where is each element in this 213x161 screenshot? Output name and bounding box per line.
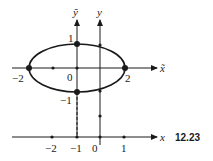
origin-label: 0 [67, 71, 73, 83]
vertex-bottom-dot [74, 89, 80, 95]
top-vertex-label: 1 [68, 32, 74, 44]
ellipse-diagram: ỹ y x̃ x 1 −2 0 2 −1 −2 −1 0 1 12.23 [0, 0, 213, 161]
vertex-left-dot [26, 65, 32, 71]
vertex-right-dot [122, 65, 128, 71]
x-tick-dot [98, 135, 101, 138]
x-tick-label: −2 [45, 142, 57, 154]
y-axis-mid-dot [98, 114, 101, 117]
x-tick-label: −1 [70, 142, 82, 154]
x-tilde-label: x̃ [159, 62, 166, 74]
left-vertex-label: −2 [12, 72, 24, 84]
y-axis-upper-cross-dot [98, 43, 101, 46]
y-tilde-label: ỹ [72, 6, 79, 18]
right-vertex-label: 2 [125, 72, 131, 84]
x-label: x [159, 131, 165, 143]
x-tick-dot [122, 135, 125, 138]
vertex-top-dot [74, 41, 80, 47]
figure-label: 12.23 [175, 132, 200, 143]
x-tick-dot [75, 135, 78, 138]
x-tick-label: 1 [121, 142, 127, 154]
tick-dot [51, 66, 54, 69]
bottom-vertex-label: −1 [60, 94, 72, 106]
center-dot [75, 66, 78, 69]
y-label: y [96, 6, 102, 18]
x-tick-label: 0 [92, 142, 98, 154]
y-axis-lower-cross-dot [98, 89, 101, 92]
x-tick-dot [50, 135, 53, 138]
